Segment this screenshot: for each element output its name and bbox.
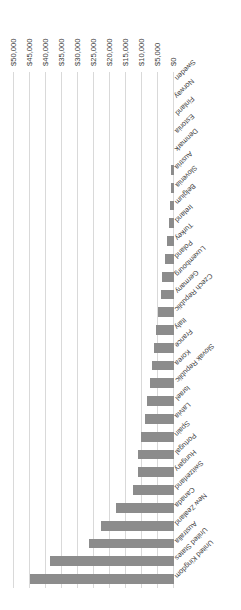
bar bbox=[145, 414, 174, 424]
bar-row: United Kingdom bbox=[14, 574, 174, 584]
bar-row: Switzerland bbox=[14, 485, 174, 495]
bar-row: New Zealand bbox=[14, 521, 174, 531]
axis-tick-label: $0 bbox=[170, 58, 178, 66]
bar-row: Belgium bbox=[14, 201, 174, 211]
bar-row: Austria bbox=[14, 165, 174, 175]
axis-tick-label: $15,000 bbox=[122, 39, 130, 66]
axis-tick-label: $40,000 bbox=[42, 39, 50, 66]
bar bbox=[138, 450, 174, 460]
bar-row: Denmark bbox=[14, 147, 174, 157]
bar bbox=[50, 556, 174, 566]
axis-tick-label: $30,000 bbox=[74, 39, 82, 66]
bar-row: United States bbox=[14, 556, 174, 566]
chart-figure: $0$5,000$10,000$15,000$20,000$25,000$30,… bbox=[0, 0, 241, 610]
bar-row: Korea bbox=[14, 361, 174, 371]
bar-row: Spain bbox=[14, 432, 174, 442]
bar bbox=[152, 361, 174, 371]
bar bbox=[150, 379, 174, 389]
bar-row: France bbox=[14, 343, 174, 353]
bar-row: Slovenia bbox=[14, 183, 174, 193]
bar-row: Australia bbox=[14, 539, 174, 549]
bar-row: Latvia bbox=[14, 414, 174, 424]
axis-tick-label: $45,000 bbox=[26, 39, 34, 66]
bar-row: Germany bbox=[14, 290, 174, 300]
category-label: Latvia bbox=[171, 401, 192, 422]
bar-row: Estonia bbox=[14, 129, 174, 139]
bar-row: Ireland bbox=[14, 218, 174, 228]
bar-row: Czech Republic bbox=[14, 307, 174, 317]
bar-row: Israel bbox=[14, 396, 174, 406]
bar bbox=[101, 521, 174, 531]
bar-row: Norway bbox=[14, 94, 174, 104]
bar-row: Italy bbox=[14, 325, 174, 335]
bar-row: Hungary bbox=[14, 467, 174, 477]
bar-row: Portugal bbox=[14, 450, 174, 460]
bar bbox=[147, 396, 174, 406]
bar bbox=[141, 432, 174, 442]
axis-tick-label: $25,000 bbox=[90, 39, 98, 66]
axis-tick-label: $20,000 bbox=[106, 39, 114, 66]
axis-tick-label: $50,000 bbox=[10, 39, 18, 66]
bar-row: Turkey bbox=[14, 236, 174, 246]
bar bbox=[138, 467, 174, 477]
bar-row: Slovak Republic bbox=[14, 379, 174, 389]
axis-tick-label: $10,000 bbox=[138, 39, 146, 66]
bar bbox=[116, 503, 174, 513]
bar-plot: $0$5,000$10,000$15,000$20,000$25,000$30,… bbox=[14, 72, 174, 588]
bar bbox=[30, 574, 174, 584]
bar-row: Poland bbox=[14, 254, 174, 264]
bar-row: Luxembourg bbox=[14, 272, 174, 282]
axis-tick-label: $35,000 bbox=[58, 39, 66, 66]
category-label: Israel bbox=[171, 384, 191, 404]
chart-plot-area: $0$5,000$10,000$15,000$20,000$25,000$30,… bbox=[0, 0, 241, 610]
bar-row: Canada bbox=[14, 503, 174, 513]
bar bbox=[133, 485, 174, 495]
bar-row: Sweden bbox=[14, 76, 174, 86]
axis-tick-label: $5,000 bbox=[154, 43, 162, 66]
bar bbox=[89, 539, 174, 549]
bar-row: Finland bbox=[14, 112, 174, 122]
